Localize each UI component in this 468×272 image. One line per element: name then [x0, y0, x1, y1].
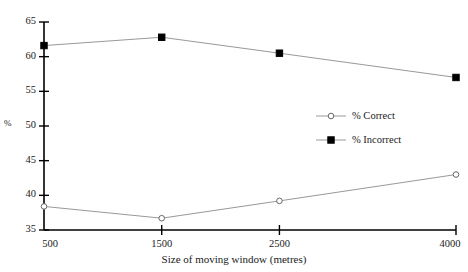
y-tick-label: 45	[14, 154, 36, 165]
x-tick-label: 4000	[430, 238, 468, 249]
data-point-incorrect	[453, 74, 459, 80]
y-tick-label: 65	[14, 15, 36, 26]
x-tick-label: 1500	[142, 238, 182, 249]
legend-marker-incorrect	[328, 137, 334, 143]
y-tick-label: 35	[14, 223, 36, 234]
data-point-incorrect	[276, 50, 282, 56]
series-line-correct	[44, 175, 456, 219]
series-markers	[41, 34, 459, 221]
legend-label-correct: % Correct	[352, 110, 395, 121]
series-lines	[44, 37, 456, 218]
x-axis-title: Size of moving window (metres)	[0, 253, 468, 265]
data-point-correct	[277, 198, 283, 204]
y-axis-label: %	[4, 118, 12, 128]
y-tick-label: 60	[14, 50, 36, 61]
legend-label-incorrect: % Incorrect	[352, 134, 401, 145]
chart-container: 35404550556065 500150025004000 % Size of…	[0, 0, 468, 272]
y-tick-label: 55	[14, 84, 36, 95]
data-point-incorrect	[41, 42, 47, 48]
data-point-correct	[453, 172, 459, 178]
data-point-correct	[159, 215, 165, 221]
data-point-correct	[41, 204, 47, 210]
legend-marker-correct	[328, 113, 334, 119]
data-point-incorrect	[159, 34, 165, 40]
x-tick-label: 500	[30, 238, 70, 249]
x-tick-label: 2500	[259, 238, 299, 249]
series-line-incorrect	[44, 37, 456, 77]
legend-markers	[316, 113, 346, 143]
y-tick-label: 40	[14, 188, 36, 199]
y-tick-label: 50	[14, 119, 36, 130]
